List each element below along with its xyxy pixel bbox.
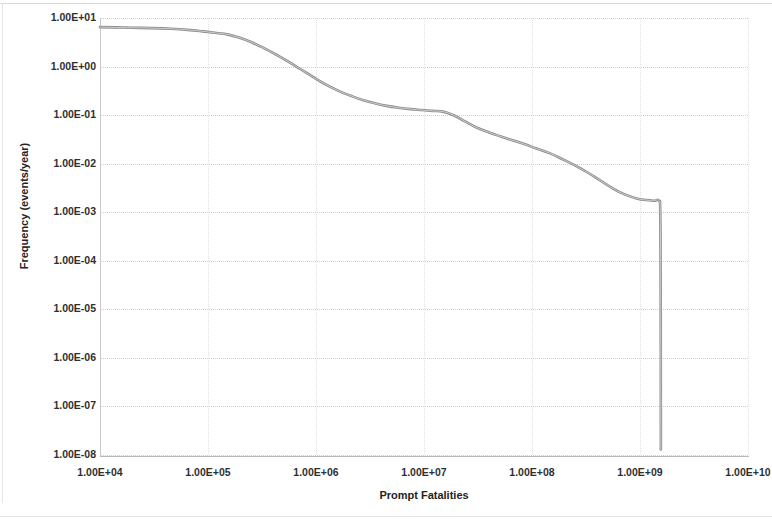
y-tick-label: 1.00E-08 — [0, 448, 96, 460]
y-tick-label: 1.00E-03 — [0, 205, 96, 217]
plot-area — [100, 18, 748, 455]
gridline-horizontal — [100, 455, 748, 456]
y-tick-label: 1.00E-01 — [0, 108, 96, 120]
y-tick-label: 1.00E-07 — [0, 399, 96, 411]
y-axis-title: Frequency (events/year) — [18, 96, 30, 316]
x-tick-label: 1.00E+04 — [45, 466, 155, 478]
plot-axis-bottom — [100, 456, 749, 457]
gridline-vertical — [316, 18, 317, 455]
gridline-vertical — [424, 18, 425, 455]
x-tick-label: 1.00E+06 — [261, 466, 371, 478]
figure-frame-bottom — [0, 516, 772, 517]
x-tick-label: 1.00E+07 — [369, 466, 479, 478]
y-tick-label: 1.00E-04 — [0, 254, 96, 266]
x-tick-label: 1.00E+08 — [477, 466, 587, 478]
y-tick-label: 1.00E+00 — [0, 60, 96, 72]
gridline-vertical — [748, 18, 749, 455]
x-tick-label: 1.00E+05 — [153, 466, 263, 478]
gridline-vertical — [640, 18, 641, 455]
y-tick-label: 1.00E-06 — [0, 351, 96, 363]
chart-figure: 1.00E+011.00E+001.00E-011.00E-021.00E-03… — [0, 0, 772, 526]
gridline-vertical — [208, 18, 209, 455]
x-axis-title: Prompt Fatalities — [100, 489, 748, 501]
y-tick-label: 1.00E-02 — [0, 157, 96, 169]
x-tick-label: 1.00E+09 — [585, 466, 695, 478]
x-tick-label: 1.00E+10 — [693, 466, 772, 478]
y-tick-label: 1.00E-05 — [0, 302, 96, 314]
y-tick-label: 1.00E+01 — [0, 11, 96, 23]
gridline-vertical — [532, 18, 533, 455]
figure-frame-top — [0, 3, 772, 4]
